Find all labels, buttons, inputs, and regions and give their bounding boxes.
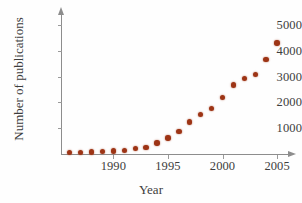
data-point — [133, 146, 138, 151]
y-axis-tick-label: 2000 — [246, 96, 302, 109]
y-axis-tick-mark — [58, 25, 62, 26]
y-axis-tick-mark — [58, 102, 62, 103]
y-axis-tick-label: 5000 — [246, 19, 302, 32]
x-axis-arrow-icon — [288, 151, 296, 157]
data-point — [187, 119, 192, 124]
y-axis-tick-mark — [58, 51, 62, 52]
y-axis-tick-label: 4000 — [246, 45, 302, 58]
x-axis-tick-label: 2000 — [197, 160, 249, 173]
data-point — [231, 82, 236, 87]
data-point — [143, 145, 148, 150]
x-axis-tick-mark — [277, 155, 278, 159]
data-point — [220, 95, 225, 100]
x-axis-tick-mark — [113, 155, 114, 159]
y-axis-title: Number of publications — [11, 17, 26, 140]
data-point — [242, 76, 247, 81]
y-axis-tick-mark — [58, 77, 62, 78]
y-axis-arrow-icon — [58, 7, 64, 15]
publications-scatter-chart: 10002000300040005000 1990199520002005 Nu… — [0, 0, 302, 203]
y-axis-tick-label: 1000 — [246, 122, 302, 135]
data-point — [274, 40, 279, 45]
y-axis-line — [61, 13, 62, 155]
data-point — [154, 140, 159, 145]
x-axis-tick-mark — [168, 155, 169, 159]
x-axis-tick-label: 1995 — [142, 160, 194, 173]
plot-area: 10002000300040005000 1990199520002005 — [0, 0, 302, 203]
data-point — [209, 106, 214, 111]
data-point — [263, 57, 268, 62]
data-point — [198, 112, 203, 117]
data-point — [165, 135, 170, 140]
x-axis-tick-label: 2005 — [251, 160, 302, 173]
x-axis-tick-mark — [223, 155, 224, 159]
data-point — [176, 129, 181, 134]
data-point — [89, 149, 94, 154]
y-axis-title-container: Number of publications — [9, 0, 27, 159]
data-point — [111, 148, 116, 153]
data-point — [122, 148, 127, 153]
y-axis-tick-mark — [58, 128, 62, 129]
x-axis-line — [61, 154, 290, 155]
x-axis-tick-label: 1990 — [87, 160, 139, 173]
x-axis-title: Year — [0, 183, 302, 196]
